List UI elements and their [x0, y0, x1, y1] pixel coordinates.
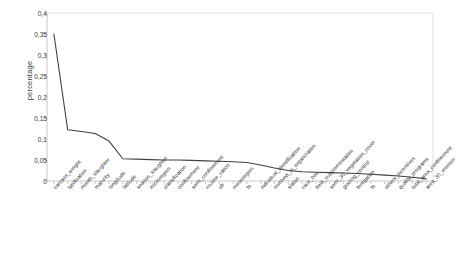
x-tick-label: slaton	[286, 175, 300, 190]
x-tick-label: fs	[369, 183, 376, 190]
x-tick-label: cfr	[217, 182, 225, 190]
x-tick-label: fs	[245, 183, 252, 190]
